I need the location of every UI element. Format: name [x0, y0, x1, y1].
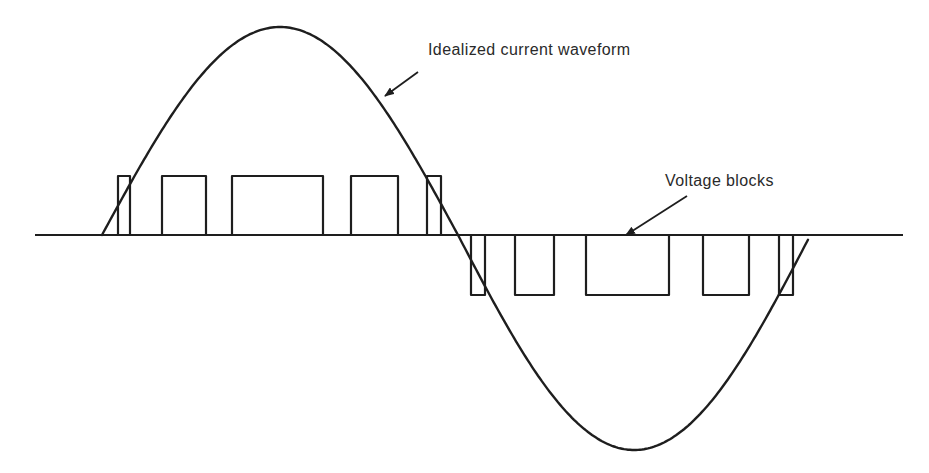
voltage-blocks-label: Voltage blocks: [665, 172, 774, 190]
label-arrows: [385, 72, 687, 235]
voltage-block: [118, 176, 130, 235]
voltage-block: [779, 235, 793, 295]
voltage-block: [162, 176, 206, 235]
voltage-block: [515, 235, 554, 295]
positive-voltage-blocks: [118, 176, 441, 235]
voltage-block: [586, 235, 669, 295]
voltage-arrow: [626, 196, 687, 235]
current-waveform-label: Idealized current waveform: [428, 41, 631, 59]
current-arrow: [385, 72, 418, 96]
voltage-block: [703, 235, 749, 295]
voltage-block: [232, 176, 323, 235]
voltage-block: [351, 176, 398, 235]
negative-voltage-blocks: [471, 235, 793, 295]
waveform-diagram: [0, 0, 929, 473]
